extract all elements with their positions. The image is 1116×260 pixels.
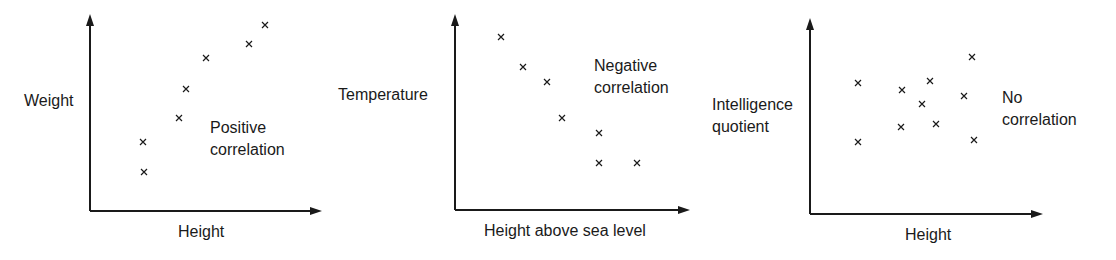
y-axis-arrow-icon [86, 14, 94, 26]
data-point-cross-icon [855, 139, 861, 145]
chart3-xlabel: Height [905, 224, 951, 246]
data-point-cross-icon [141, 169, 147, 175]
data-point-cross-icon [596, 160, 602, 166]
chart2-xlabel: Height above sea level [484, 220, 646, 242]
data-point-cross-icon [927, 78, 933, 84]
data-point-cross-icon [140, 139, 146, 145]
data-point-cross-icon [246, 41, 252, 47]
x-axis-arrow-icon [1031, 210, 1043, 218]
chart2-ylabel: Temperature [338, 84, 428, 106]
chart3-ylabel: Intelligence quotient [712, 94, 793, 138]
data-point-cross-icon [498, 34, 504, 40]
data-point-cross-icon [183, 86, 189, 92]
data-point-cross-icon [855, 80, 861, 86]
data-point-cross-icon [596, 130, 602, 136]
chart2-annotation: Negative correlation [594, 55, 669, 99]
data-point-cross-icon [634, 160, 640, 166]
data-point-cross-icon [969, 54, 975, 60]
chart1-ylabel: Weight [24, 90, 74, 112]
data-point-cross-icon [919, 101, 925, 107]
y-axis-arrow-icon [451, 14, 459, 26]
chart1-xlabel: Height [178, 221, 224, 243]
x-axis-arrow-icon [310, 207, 322, 215]
y-axis-arrow-icon [806, 18, 814, 30]
data-point-cross-icon [971, 137, 977, 143]
data-point-cross-icon [559, 115, 565, 121]
data-point-cross-icon [899, 87, 905, 93]
data-point-cross-icon [961, 93, 967, 99]
data-point-cross-icon [262, 22, 268, 28]
data-point-cross-icon [933, 121, 939, 127]
data-point-cross-icon [520, 64, 526, 70]
chart3-annotation: No correlation [1002, 87, 1077, 131]
data-point-cross-icon [898, 124, 904, 130]
chart1-annotation: Positive correlation [210, 117, 285, 161]
data-point-cross-icon [203, 55, 209, 61]
data-point-cross-icon [544, 79, 550, 85]
x-axis-arrow-icon [678, 206, 690, 214]
data-point-cross-icon [176, 115, 182, 121]
